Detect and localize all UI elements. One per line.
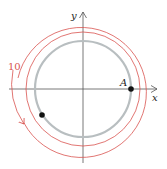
rotation-diagram: y x A 10 [0, 0, 167, 169]
moving-point [39, 112, 45, 118]
rotation-label: 10 [8, 61, 21, 72]
rotation-arrow [12, 70, 24, 124]
point-A [128, 86, 134, 92]
x-axis-label: x [152, 92, 158, 103]
y-axis-label: y [70, 10, 77, 21]
point-A-label: A [119, 77, 127, 88]
